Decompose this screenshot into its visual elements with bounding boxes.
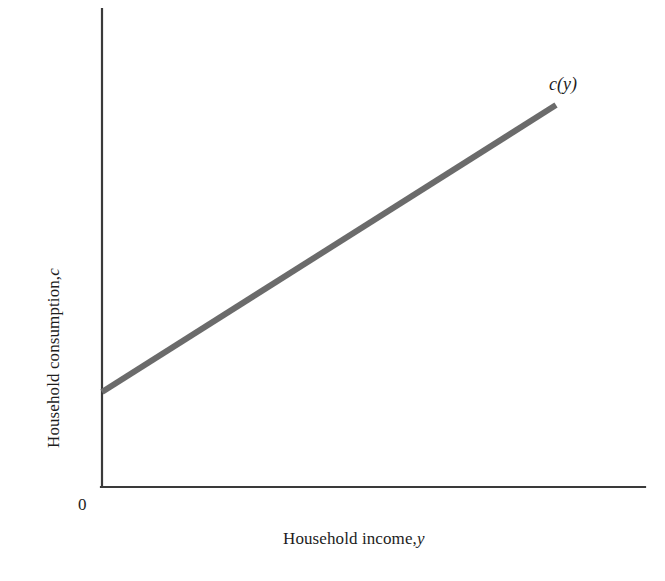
y-axis-label: Household consumption,c: [44, 268, 64, 448]
consumption-function-line: [102, 105, 556, 392]
x-axis-label-variable: y: [417, 529, 425, 548]
figure-canvas: Household consumption,c Household income…: [0, 0, 665, 581]
y-axis-label-variable: c: [44, 268, 63, 276]
y-axis-label-text: Household consumption,: [44, 276, 63, 448]
x-axis-label-text: Household income,: [283, 529, 417, 548]
origin-label: 0: [78, 495, 87, 515]
curve-label: c(y): [549, 74, 577, 95]
x-axis-label: Household income,y: [283, 529, 425, 549]
